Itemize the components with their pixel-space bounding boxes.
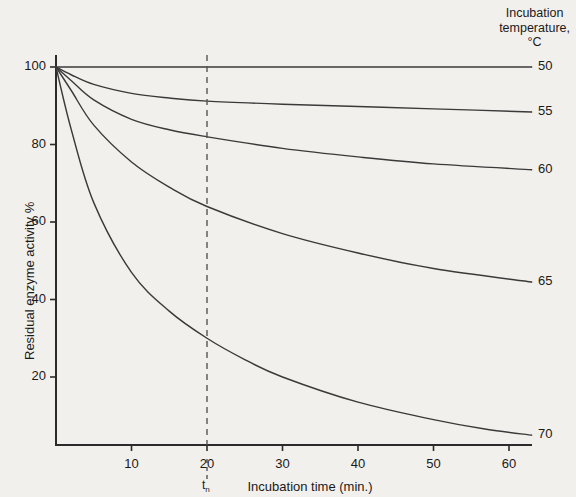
series-line-70 [56, 67, 532, 435]
series-label-60: 60 [538, 161, 552, 176]
chart-figure: Incubation temperature, °C 5055606570 20… [0, 0, 576, 497]
y-tick-label-100: 100 [12, 58, 46, 73]
series-line-60 [56, 67, 532, 170]
series-label-65: 65 [538, 273, 552, 288]
t-sub-n-marker-label: tn [202, 478, 210, 494]
axis-spines [56, 55, 532, 445]
series-label-70: 70 [538, 426, 552, 441]
series-label-55: 55 [538, 103, 552, 118]
legend-title-line-3: °C [499, 35, 570, 50]
x-tick-label-50: 50 [419, 456, 449, 471]
legend-title-line-1: Incubation [499, 6, 570, 21]
x-tick-label-20: 20 [192, 456, 222, 471]
chart-plot-area [0, 0, 576, 497]
x-axis-title: Incubation time (min.) [220, 479, 400, 494]
legend-title: Incubation temperature, °C [499, 6, 570, 50]
y-tick-label-80: 80 [12, 136, 46, 151]
x-tick-label-40: 40 [343, 456, 373, 471]
series-line-65 [56, 67, 532, 282]
y-tick-label-20: 20 [12, 368, 46, 383]
x-tick-label-30: 30 [268, 456, 298, 471]
series-label-50: 50 [538, 58, 552, 73]
x-tick-label-10: 10 [117, 456, 147, 471]
x-tick-label-60: 60 [494, 456, 524, 471]
series-line-55 [56, 67, 532, 112]
legend-title-line-2: temperature, [499, 21, 570, 36]
y-axis-title: Residual enzyme activity % [22, 202, 37, 360]
